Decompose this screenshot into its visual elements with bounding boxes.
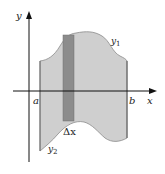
delta-x-strip xyxy=(63,35,74,121)
x-axis-arrow-icon xyxy=(149,88,157,94)
y-axis-arrow-icon xyxy=(26,11,32,19)
y-axis-label: y xyxy=(15,10,22,21)
upper-curve-label: y1 xyxy=(110,36,121,48)
lower-curve-label: y2 xyxy=(47,144,58,156)
bound-b-label: b xyxy=(129,95,135,106)
x-axis-label: x xyxy=(147,95,153,106)
delta-x-label: Δx xyxy=(63,126,76,137)
bound-a-label: a xyxy=(33,95,39,106)
area-diagram: y x a b y1 y2 Δx xyxy=(0,0,165,174)
